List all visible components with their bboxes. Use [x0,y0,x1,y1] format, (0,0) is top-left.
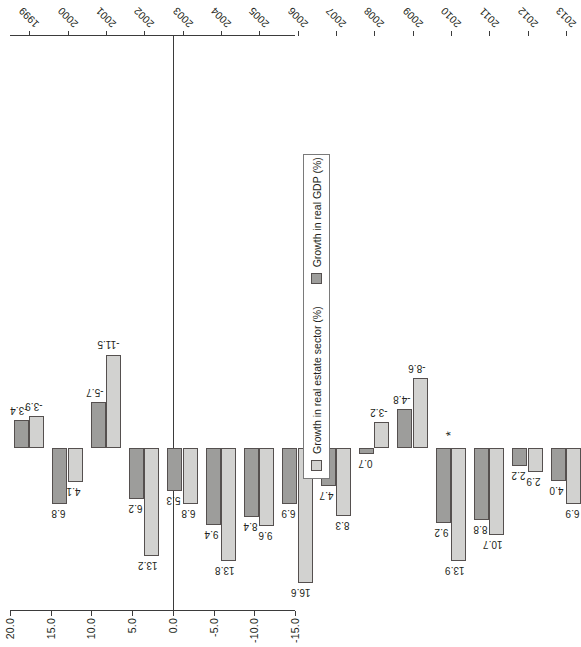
category-tick [528,31,529,36]
category-label-2004: 2004 [208,5,233,30]
category-label-2003: 2003 [170,5,195,30]
category-tick [259,31,260,36]
category-tick [144,31,145,36]
bar-2009-series0 [413,378,428,448]
value-tick [214,611,215,616]
plot-area: 20.015.010.05.00.0-5.0-10.0-15.0 1999200… [10,36,295,611]
bar-value-label-2011-series0: 10.7 [488,539,502,550]
bar-value-label-2005-series1: 8.4 [243,520,257,531]
legend-swatch-0 [311,460,322,471]
category-tick [336,31,337,36]
legend-item-1: Growth in real GDP (%) [311,157,323,284]
bar-2010-series1 [436,448,451,523]
category-label-2012: 2012 [515,5,540,30]
bar-2002-series0 [144,448,159,555]
category-axis-line [10,35,295,36]
bar-value-label-2012-series0: 2.9 [527,475,541,486]
bar-value-label-2004-series1: 9.4 [205,528,219,539]
category-label-1999: 1999 [16,5,41,30]
value-tick [132,611,133,616]
bar-2000-series0 [68,448,83,481]
category-label-2011: 2011 [477,6,501,30]
bar-2010-series0 [451,448,466,561]
bar-value-label-2002-series1: 6.2 [128,502,142,513]
value-tick [173,611,174,616]
bar-2008-series0 [374,422,389,448]
value-tick-label: -10.0 [248,618,260,643]
bar-value-label-2004-series0: 13.8 [220,564,234,575]
zero-baseline [173,36,174,611]
category-tick [29,31,30,36]
bar-value-label-2013-series1: 4.0 [550,484,564,495]
bar-value-label-2007-series1: 4.7 [320,490,334,501]
bar-2011-series0 [489,448,504,535]
value-tick-label: 20.0 [4,618,16,639]
bar-value-label-2008-series0: -3.2 [373,407,387,418]
category-label-2010: 2010 [438,5,463,30]
bar-2005-series1 [244,448,259,516]
bar-value-label-2002-series0: 13.2 [143,559,157,570]
category-label-2013: 2013 [553,5,578,30]
category-label-2001: 2001 [93,5,118,30]
bar-2011-series1 [474,448,489,520]
value-tick [254,611,255,616]
value-tick-label: -5.0 [208,618,220,637]
bar-2006-series1 [282,448,297,504]
bar-2012-series1 [512,448,527,466]
bar-1999-series0 [29,416,44,448]
bar-2001-series1 [91,402,106,448]
bar-value-label-2009-series1: -4.8 [396,394,410,405]
category-tick [566,31,567,36]
bar-2001-series0 [106,355,121,449]
category-tick [489,31,490,36]
bar-value-label-2005-series0: 9.6 [258,530,272,541]
bar-value-label-2007-series0: 8.3 [335,519,349,530]
bar-value-label-2009-series0: -8.6 [412,363,426,374]
bar-value-label-2001-series0: -11.5 [105,339,119,350]
category-tick [374,31,375,36]
bar-2003-series0 [183,448,198,503]
legend-label-1: Growth in real GDP (%) [311,157,323,267]
value-tick-label: 0.0 [167,618,179,633]
category-tick [298,31,299,36]
bar-value-label-2000-series0: 4.1 [67,485,81,496]
bar-value-label-2003-series1: 5.3 [166,495,180,506]
bar-2007-series0 [336,448,351,516]
category-tick [183,31,184,36]
legend-item-0: Growth in real estate sector (%) [311,306,323,471]
category-tick [68,31,69,36]
category-tick [451,31,452,36]
bar-2003-series1 [167,448,182,491]
value-tick-label: -15.0 [289,618,301,643]
value-tick [51,611,52,616]
value-axis-line [10,610,295,611]
category-label-2009: 2009 [400,5,425,30]
bar-value-label-2008-series1: 0.7 [358,457,372,468]
bar-value-label-2000-series1: 6.8 [51,507,65,518]
category-label-2005: 2005 [246,5,271,30]
bar-value-label-2006-series1: 6.9 [281,508,295,519]
bar-value-label-2003-series0: 6.8 [182,507,196,518]
bar-2005-series0 [259,448,274,526]
bar-2002-series1 [129,448,144,498]
bar-value-label-1999-series0: -3.9 [28,401,42,412]
value-tick-label: 15.0 [45,618,57,639]
bar-2009-series1 [397,409,412,448]
legend-label-0: Growth in real estate sector (%) [311,306,323,454]
value-tick [91,611,92,616]
category-label-2006: 2006 [285,5,310,30]
bar-2012-series0 [528,448,543,472]
category-label-2000: 2000 [55,5,80,30]
category-label-2007: 2007 [323,5,348,30]
bar-2008-series1 [359,448,374,454]
category-label-2002: 2002 [131,5,156,30]
bar-2004-series1 [206,448,221,525]
bar-value-label-2001-series1: -5.7 [90,386,104,397]
chart-legend: Growth in real estate sector (%)Growth i… [303,154,330,479]
legend-swatch-1 [311,273,322,284]
bar-2004-series0 [221,448,236,560]
bar-value-label-2012-series1: 2.2 [511,470,525,481]
bar-2013-series1 [551,448,566,481]
